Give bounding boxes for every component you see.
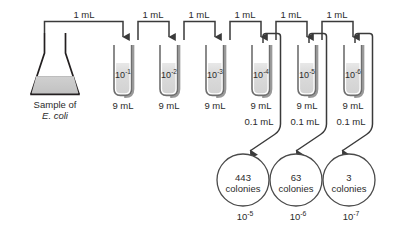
tube-4-volume-label: 9 mL (250, 101, 271, 111)
transfer-label-3: 1 mL (188, 10, 209, 20)
tube-5-dilution-label: 10-5 (299, 71, 315, 80)
plate-3-count: 3 (332, 173, 367, 184)
tube-3-dilution-exponent: -3 (217, 68, 223, 75)
plate-2-count-label: 63 colonies (279, 173, 314, 194)
plate-2-dilution-base: 10 (290, 211, 301, 222)
tube-2-dilution-label: 10-2 (161, 71, 177, 80)
tube-6-dilution-base: 10 (345, 70, 355, 80)
tube-3-dilution-base: 10 (207, 70, 217, 80)
plate-1-dilution-base: 10 (237, 211, 248, 222)
transfer-line-4 (230, 22, 261, 41)
tube-6-dilution-label: 10-6 (345, 71, 361, 80)
plate-2-dilution-exponent: -6 (300, 210, 306, 217)
serial-dilution-diagram: 1 mL 1 mL 1 mL 1 mL 1 mL 1 mL Sample of … (0, 0, 400, 228)
plate-1-count-label: 443 colonies (226, 173, 261, 194)
tube-4-dilution-label: 10-4 (253, 71, 269, 80)
tube-1-dilution-exponent: -1 (125, 68, 131, 75)
tube-5-dilution-base: 10 (299, 70, 309, 80)
erlenmeyer-flask (30, 33, 80, 94)
transfer-label-4: 1 mL (234, 10, 255, 20)
tube-2-volume-label: 9 mL (158, 101, 179, 111)
plate-1-dilution-label: 10-5 (237, 212, 254, 222)
plate-3-dilution-exponent: -7 (353, 210, 359, 217)
transfer-line-3 (184, 22, 215, 41)
tube-3-volume-label: 9 mL (204, 101, 225, 111)
transfer-label-2: 1 mL (142, 10, 163, 20)
plate-3-count-label: 3 colonies (332, 173, 367, 194)
plate-3-unit: colonies (332, 184, 367, 195)
plate-1-unit: colonies (226, 184, 261, 195)
tube-6-dilution-exponent: -6 (355, 68, 361, 75)
tube-2-dilution-base: 10 (161, 70, 171, 80)
transfer-line-2 (138, 22, 169, 41)
flask-liquid (32, 77, 79, 94)
plate-2-unit: colonies (279, 184, 314, 195)
tube-5-volume-label: 9 mL (296, 101, 317, 111)
plate-2-count: 63 (279, 173, 314, 184)
tube-3-dilution-label: 10-3 (207, 71, 223, 80)
transfer-label-1: 1 mL (73, 10, 94, 20)
plate-2-dilution-label: 10-6 (290, 212, 307, 222)
plate-1-dilution-exponent: -5 (247, 210, 253, 217)
flask-label-line1: Sample of (34, 99, 77, 110)
tube-1-volume-label: 9 mL (112, 101, 133, 111)
tube-6-volume-label: 9 mL (342, 101, 363, 111)
transfer-lines-group (45, 22, 354, 41)
transfer-line-1 (45, 22, 124, 38)
plate-3-dilution-base: 10 (343, 211, 354, 222)
tube-2-dilution-exponent: -2 (171, 68, 177, 75)
tube-5-dilution-exponent: -5 (309, 68, 315, 75)
tube-1-dilution-base: 10 (115, 70, 125, 80)
aliquot-label-2: 0.1 mL (290, 117, 319, 127)
plate-1-count: 443 (226, 173, 261, 184)
tube-4-dilution-base: 10 (253, 70, 263, 80)
flask-label-species: E. coli (34, 110, 77, 121)
plate-3-dilution-label: 10-7 (343, 212, 360, 222)
aliquot-label-3: 0.1 mL (336, 117, 365, 127)
tube-4-dilution-exponent: -4 (263, 68, 269, 75)
transfer-label-5: 1 mL (280, 10, 301, 20)
flask-label: Sample of E. coli (34, 99, 77, 121)
tube-1-dilution-label: 10-1 (115, 71, 131, 80)
transfer-label-6: 1 mL (326, 10, 347, 20)
aliquot-label-1: 0.1 mL (244, 117, 273, 127)
